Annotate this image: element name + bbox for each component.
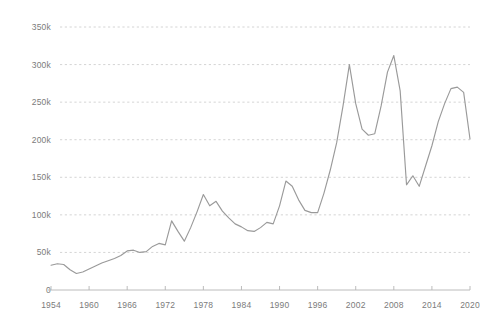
y-tick-label: 50k (37, 247, 52, 257)
x-tick-label: 2020 (460, 300, 480, 310)
y-tick-label: 350k (32, 22, 52, 32)
x-tick-label: 1966 (117, 300, 137, 310)
x-axis (48, 286, 470, 290)
series-line-value (51, 56, 470, 274)
x-axis-labels: 1954196019661972197819841990199620022008… (41, 300, 480, 310)
data-series (51, 56, 470, 274)
y-tick-label: 200k (32, 135, 52, 145)
line-chart: 050k100k150k200k250k300k350k 19541960196… (0, 0, 491, 327)
x-tick-label: 1990 (270, 300, 290, 310)
x-tick-label: 2008 (384, 300, 404, 310)
x-tick-label: 1972 (155, 300, 175, 310)
x-tick-label: 1984 (232, 300, 252, 310)
y-tick-label: 300k (32, 60, 52, 70)
chart-svg: 050k100k150k200k250k300k350k 19541960196… (0, 0, 491, 327)
x-tick-label: 2014 (422, 300, 442, 310)
y-tick-label: 150k (32, 172, 52, 182)
x-tick-label: 2002 (346, 300, 366, 310)
y-axis-labels: 050k100k150k200k250k300k350k (32, 22, 52, 295)
x-tick-label: 1978 (194, 300, 214, 310)
y-tick-label: 250k (32, 97, 52, 107)
gridlines-group (60, 27, 470, 252)
x-tick-label: 1954 (41, 300, 61, 310)
y-tick-label: 100k (32, 210, 52, 220)
x-tick-label: 1960 (79, 300, 99, 310)
x-tick-label: 1996 (308, 300, 328, 310)
